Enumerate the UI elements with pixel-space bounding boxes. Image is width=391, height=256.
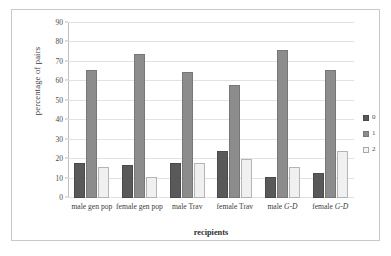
legend-item: 1 [363, 130, 376, 137]
x-tick-label: male G-D [259, 202, 307, 212]
y-tick-label: 30 [56, 134, 64, 143]
chart-plot-frame: percentage of pairs 0102030405060708090 … [11, 9, 380, 241]
x-tick-label: male Trav [163, 202, 211, 212]
y-tick-label: 20 [56, 154, 64, 163]
bar [170, 163, 181, 198]
y-tick-label: 0 [59, 193, 63, 202]
y-tick-label: 80 [56, 37, 64, 46]
bar-group [306, 23, 354, 198]
legend-swatch-icon [363, 147, 369, 153]
bar [313, 173, 324, 198]
x-tick-label: male gen pop [68, 202, 116, 212]
legend-label: 2 [372, 146, 376, 153]
x-tick-label: female Trav [211, 202, 259, 212]
plot-area: 0102030405060708090 [68, 23, 354, 198]
bar [229, 85, 240, 198]
legend-label: 1 [372, 130, 376, 137]
bar [122, 165, 133, 198]
bar [289, 167, 300, 198]
bar [98, 167, 109, 198]
bar [337, 151, 348, 198]
bar [182, 72, 193, 198]
bar [265, 177, 276, 198]
y-tick-label: 50 [56, 95, 64, 104]
bar-group [259, 23, 307, 198]
bar [134, 54, 145, 198]
y-axis-title: percentage of pairs [32, 16, 42, 146]
bar [241, 159, 252, 198]
chart-container: percentage of pairs 0102030405060708090 … [0, 0, 391, 256]
legend-swatch-icon [363, 115, 369, 121]
bar [325, 70, 336, 198]
y-tick-label: 40 [56, 115, 64, 124]
chart-legend: 012 [363, 114, 376, 153]
bar-group [211, 23, 259, 198]
x-axis-title: recipients [68, 228, 354, 237]
legend-item: 0 [363, 114, 376, 121]
y-tick-label: 60 [56, 76, 64, 85]
y-tick-label: 70 [56, 56, 64, 65]
bar [146, 177, 157, 198]
x-tick-label: female gen pop [116, 202, 164, 212]
bar-group [163, 23, 211, 198]
bar-group [116, 23, 164, 198]
bar [277, 50, 288, 198]
bar-groups [68, 23, 354, 198]
legend-label: 0 [372, 114, 376, 121]
bar [74, 163, 85, 198]
legend-swatch-icon [363, 131, 369, 137]
x-tick-label: female G-D [306, 202, 354, 212]
y-tick-label: 90 [56, 18, 64, 27]
x-axis-tick-labels: male gen popfemale gen popmale Travfemal… [68, 202, 354, 212]
legend-item: 2 [363, 146, 376, 153]
bar [86, 70, 97, 198]
y-tick-label: 10 [56, 173, 64, 182]
bar [194, 163, 205, 198]
bar-group [68, 23, 116, 198]
bar [217, 151, 228, 198]
